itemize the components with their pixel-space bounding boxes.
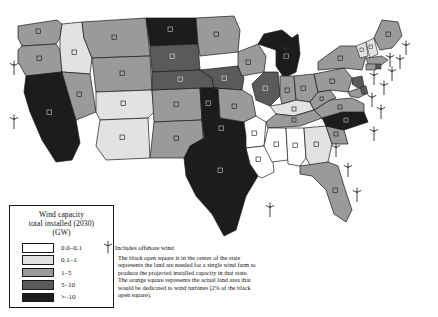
state-oregon — [18, 44, 62, 76]
legend-title: Wind capacity total installed (2030) (GW… — [13, 210, 110, 238]
state-pennsylvania — [314, 68, 352, 92]
state-rhode-island — [376, 64, 381, 69]
legend-label-0: 0.0–0.1 — [61, 244, 82, 252]
legend-entries: 0.0–0.1 0.1–1 1–5 5–10 >–10 — [13, 242, 110, 304]
state-wisconsin — [238, 44, 266, 76]
legend-item: 1–5 — [22, 266, 110, 278]
note-line-1: represents the land are needed for a sin… — [118, 261, 278, 268]
state-illinois — [252, 72, 280, 106]
state-indiana — [280, 76, 296, 104]
legend-swatch-1 — [22, 255, 54, 265]
legend-label-3: 5–10 — [61, 281, 75, 289]
legend-label-4: >–10 — [61, 293, 75, 301]
state-arizona — [96, 118, 150, 160]
state-montana — [82, 18, 150, 58]
note-line-3: The orange square represents the actual … — [118, 276, 278, 283]
note-line-0: The black open square is in the center o… — [118, 254, 278, 261]
legend-item: 0.1–1 — [22, 254, 110, 266]
state-florida — [300, 162, 352, 222]
legend-item: 5–10 — [22, 279, 110, 291]
state-wyoming — [92, 56, 152, 92]
state-missouri — [214, 88, 256, 122]
state-new-jersey — [352, 76, 364, 88]
offshore-wind-label: Includes offshore wind — [115, 244, 174, 251]
state-kansas — [200, 88, 220, 120]
wind-turbine-icon — [103, 240, 113, 254]
legend-swatch-0 — [22, 243, 54, 253]
state-connecticut — [366, 64, 376, 70]
note-line-2: produce the projected installed capacity… — [118, 269, 278, 276]
offshore-wind-annotation: Includes offshore wind — [103, 240, 174, 254]
note-line-5: open square). — [118, 291, 278, 298]
state-colorado — [152, 88, 202, 122]
legend-label-2: 1–5 — [61, 269, 72, 277]
legend-item: 0.0–0.1 — [22, 242, 110, 254]
legend-title-line1: Wind capacity — [13, 210, 110, 219]
state-arkansas — [244, 116, 266, 148]
legend-swatch-3 — [22, 280, 54, 290]
legend-swatch-4 — [22, 293, 54, 303]
state-utah — [96, 90, 154, 120]
state-alabama — [286, 128, 306, 166]
figure-container: Wind capacity total installed (2030) (GW… — [0, 0, 438, 317]
state-south-dakota — [150, 44, 200, 72]
state-minnesota — [196, 16, 240, 56]
map-legend: Wind capacity total installed (2030) (GW… — [9, 205, 114, 308]
legend-item: >–10 — [22, 291, 110, 303]
legend-title-line3: (GW) — [13, 228, 110, 237]
state-washington — [18, 20, 62, 46]
state-maine — [374, 20, 402, 50]
map-note: The black open square is in the center o… — [118, 254, 278, 298]
legend-label-1: 0.1–1 — [61, 256, 77, 264]
note-line-4: would be dedicated to wind turbines (2% … — [118, 284, 278, 291]
state-north-dakota — [146, 18, 198, 46]
legend-title-line2: total installed (2030) — [13, 219, 110, 228]
legend-swatch-2 — [22, 268, 54, 278]
